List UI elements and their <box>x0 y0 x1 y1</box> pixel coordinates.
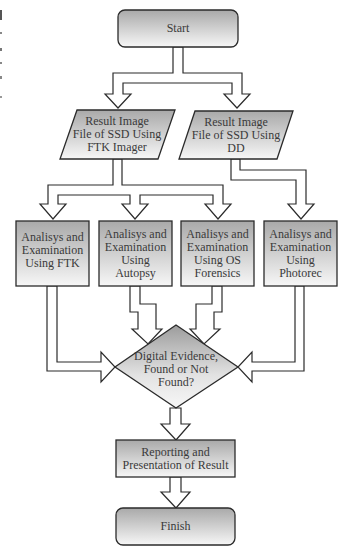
arrow-decision-to-reporting <box>161 408 190 440</box>
reporting-node <box>116 440 235 477</box>
arrow-osforensics-to-decision <box>190 286 222 344</box>
page-edge-marks <box>0 10 3 200</box>
decision-node <box>115 325 238 408</box>
flowchart-canvas <box>0 0 346 557</box>
finish-node <box>116 508 235 545</box>
dd-image-node <box>179 111 293 159</box>
arrow-dd-image-to-photorec <box>231 159 314 219</box>
arrow-autopsy-to-decision <box>130 286 162 344</box>
ftk-image-node <box>60 110 175 159</box>
arrow-reporting-to-finish <box>161 477 190 508</box>
arrow-photorec-to-decision <box>238 286 304 382</box>
analysis-ftk-node <box>16 221 89 286</box>
start-node <box>118 10 238 47</box>
analysis-autopsy-node <box>99 221 172 286</box>
arrow-ftk-image-to-analysis <box>40 159 231 219</box>
analysis-photorec-node <box>264 221 337 286</box>
analysis-osforensics-node <box>181 221 254 286</box>
arrow-start-to-ftk-image <box>105 47 250 108</box>
arrow-analysis-ftk-to-decision <box>47 286 115 382</box>
